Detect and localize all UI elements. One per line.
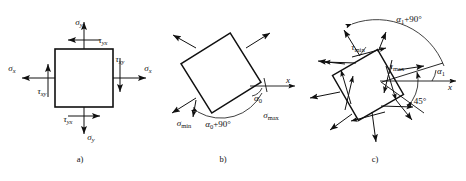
figure-canvas: σy τyx σx τxy τxy σx τyx σy a) σmin σmax…: [0, 0, 466, 181]
stress-element-figure: σy τyx σx τxy τxy σx τyx σy a) σmin σmax…: [0, 0, 466, 181]
tau-min-label-c: τmin: [351, 42, 365, 53]
sigma-x-left-label: σx: [8, 63, 15, 74]
sigma-min-arrow-upper: [173, 35, 196, 48]
tau-yx-top-label: τyx: [98, 35, 107, 46]
sigma-max-label-b: σmax: [263, 110, 279, 121]
tau-arrow-bottom-b: [381, 106, 413, 107]
sigma-x-right-label: σx: [144, 63, 151, 74]
sigma-y-bottom-label: σy: [87, 132, 94, 143]
panel-c-caption: c): [372, 154, 379, 164]
angle-45-label: 45°: [414, 96, 427, 106]
panel-a: σy τyx σx τxy τxy σx τyx σy a): [8, 17, 151, 164]
normal-arrow-group-c: [310, 30, 424, 142]
panel-c: τmin τmax x α1 α1+90° 45° c): [310, 14, 456, 164]
sigma-max-arrow-lower: [172, 98, 196, 113]
panel-b-caption: b): [219, 154, 226, 164]
sigma-min-arrow-lower: [193, 100, 196, 117]
alpha-0-plus-90-label: α0+90°: [205, 119, 231, 130]
normal-arrow-sw: [330, 114, 352, 130]
tau-xy-right-label: τxy: [115, 54, 124, 65]
normal-arrow-w-lower: [310, 92, 340, 98]
x-axis-label-b: x: [285, 75, 290, 85]
sigma-min-label-b: σmin: [177, 118, 192, 129]
stress-element-square-a: [55, 49, 113, 107]
panel-a-caption: a): [77, 154, 84, 164]
tau-xy-left-label: τxy: [37, 86, 46, 97]
sigma-y-top-label: σy: [75, 17, 82, 28]
principal-element-square-b: [181, 33, 261, 113]
sigma-max-arrow-upper: [246, 33, 270, 48]
alpha-1-arc: [432, 70, 436, 81]
normal-arrow-s: [372, 112, 376, 142]
panel-b: σmin σmax x α0 α0+90° b): [172, 33, 295, 164]
tau-max-label-c: τmax: [390, 61, 405, 72]
alpha-1-plus-90-arc: [352, 20, 444, 66]
alpha-0-tick: [264, 78, 267, 92]
alpha-1-plus-90-label: α1+90°: [396, 14, 422, 25]
alpha-1-label: α1: [437, 66, 445, 77]
x-axis-label-c: x: [447, 82, 452, 92]
